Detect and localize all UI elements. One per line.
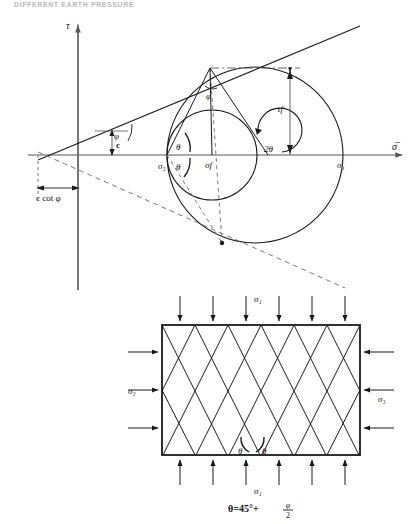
sigma3-label: σ₃	[158, 161, 166, 171]
tau-axis-label: τ	[66, 20, 70, 31]
theta-lower-arc	[184, 158, 190, 177]
theta-formula-text: θ=45°+	[228, 503, 259, 514]
c-cot-phi-label: c cot φ	[36, 193, 61, 203]
failure-envelope-line	[38, 26, 360, 160]
bottom-panel-block-diagram: σ₁ σ₁ σ₃ σ₃ θ θ	[128, 294, 394, 520]
sigma1-bottom-arrows	[180, 460, 345, 485]
sigma1-label: σ₁	[337, 160, 345, 170]
theta-lower-label: θ	[176, 162, 181, 172]
phi-tangent-label: φ	[206, 91, 211, 101]
sigma-f-label: σf	[205, 160, 213, 170]
tau-f-label: τf	[277, 104, 284, 114]
lower-tangency-point	[220, 241, 224, 245]
theta-upper-arc	[185, 133, 190, 152]
sigma3-right-arrows	[364, 352, 394, 428]
phi-angle-arc	[128, 124, 132, 141]
theta-upper-label: θ	[176, 142, 181, 152]
sigma1-top-label: σ₁	[254, 294, 262, 304]
theta-right-label-block: θ	[262, 446, 267, 456]
sigma3-to-tangent-line	[167, 68, 210, 155]
theta-formula-numerator: φ	[286, 501, 291, 510]
sigma-axis-label: σ̅	[392, 141, 401, 152]
failure-envelope-mirror-dashed	[38, 152, 345, 288]
theta-formula: θ=45°+ φ 2	[228, 501, 293, 520]
theta-formula-denominator: 2	[286, 511, 290, 520]
top-panel-mohr-diagram: τ σ̅	[28, 20, 402, 290]
tangent-to-axis-line	[210, 68, 268, 155]
sigma3-right-label: σ₃	[378, 394, 386, 404]
radius-to-tangent-vertical	[210, 68, 212, 155]
mohr-coulomb-figure: τ σ̅	[0, 0, 420, 524]
sigma1-bottom-label: σ₁	[254, 486, 262, 496]
sigma3-left-label: σ₃	[128, 386, 136, 396]
sigma1-top-arrows	[180, 296, 345, 321]
theta-left-label-block: θ	[238, 446, 243, 456]
cohesion-label: c	[116, 140, 120, 150]
two-theta-label: 2θ	[264, 144, 274, 154]
failure-planes-backward	[162, 325, 360, 455]
cohesion-dimension	[95, 129, 128, 156]
